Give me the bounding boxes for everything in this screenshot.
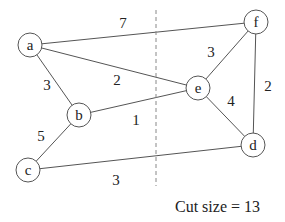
edge-weight-a-b: 3 [43,77,51,93]
edge-b-e [79,88,198,115]
edge-weight-f-d: 2 [264,78,272,94]
node-label: b [75,107,83,123]
graph-diagram: 723153342 abcdef Cut size = 13 [0,0,285,222]
edge-weight-e-f: 3 [207,44,215,60]
edge-weight-b-c: 5 [37,128,45,144]
edges-group [28,22,256,170]
edge-c-d [28,145,253,170]
node-label: c [25,162,32,178]
node-f: f [244,10,268,34]
edge-f-d [253,22,256,145]
edge-weight-b-e: 1 [132,112,140,128]
node-a: a [18,33,42,57]
node-c: c [16,158,40,182]
node-label: e [195,80,202,96]
node-b: b [67,103,91,127]
node-label: f [254,14,259,30]
cut-size-caption: Cut size = 13 [175,198,260,215]
node-e: e [186,76,210,100]
edge-a-f [30,22,256,45]
edge-weight-e-d: 4 [227,93,235,109]
edge-weight-a-e: 2 [113,72,121,88]
edge-weight-a-f: 7 [119,15,127,31]
edge-weight-c-d: 3 [112,172,120,188]
node-label: a [27,37,34,53]
node-label: d [249,137,257,153]
node-d: d [241,133,265,157]
